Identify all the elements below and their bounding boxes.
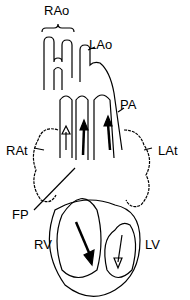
label-rao: RAo <box>44 4 69 17</box>
label-lat: LAt <box>158 144 178 157</box>
rao-brace <box>42 24 74 32</box>
right-aortic-arch-vessels <box>44 37 72 90</box>
right-atrium <box>33 129 58 202</box>
rv-arrow <box>76 222 90 255</box>
pulmonary-artery <box>94 95 114 160</box>
left-atrium <box>124 130 150 207</box>
label-lv: LV <box>145 238 160 251</box>
label-rv: RV <box>34 238 52 251</box>
right-ventricle <box>57 199 101 278</box>
arrow-up-2 <box>108 124 110 150</box>
heart-diagram: RAo LAo PA RAt LAt FP RV LV <box>0 0 190 300</box>
label-fp: FP <box>12 208 29 221</box>
label-pa: PA <box>120 98 136 111</box>
label-rat: RAt <box>6 144 28 157</box>
label-lao: LAo <box>89 38 112 51</box>
arrow-up-1 <box>83 128 84 155</box>
